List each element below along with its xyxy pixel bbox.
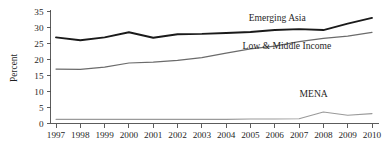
x-tick-label: 2004 — [217, 130, 236, 140]
x-tick-label: 1999 — [95, 130, 114, 140]
y-tick-label: 35 — [34, 7, 44, 17]
series-line-mena — [56, 112, 372, 119]
y-tick-label: 15 — [34, 71, 44, 81]
y-tick-label: 0 — [39, 119, 44, 129]
x-tick-label: 2010 — [363, 130, 382, 140]
series-label-low-middle-income: Low & Middle Income — [243, 40, 332, 51]
line-chart: 05101520253035 Percent 19971998199920002… — [0, 0, 387, 144]
x-tick-label: 2007 — [290, 130, 309, 140]
y-axis: 05101520253035 Percent — [9, 7, 51, 129]
x-tick-label: 2005 — [241, 130, 260, 140]
x-tick-group: 1997199819992000200120022003200420052006… — [47, 124, 382, 141]
y-tick-label: 25 — [34, 39, 44, 49]
y-tick-label: 5 — [39, 103, 44, 113]
x-tick-label: 2008 — [314, 130, 333, 140]
x-tick-label: 2000 — [120, 130, 139, 140]
x-tick-label: 1998 — [71, 130, 90, 140]
y-tick-label: 30 — [34, 23, 44, 33]
chart-canvas: 05101520253035 Percent 19971998199920002… — [0, 0, 387, 144]
y-axis-title: Percent — [9, 53, 19, 82]
x-tick-label: 2006 — [266, 130, 285, 140]
y-tick-group: 05101520253035 — [34, 7, 50, 129]
y-tick-label: 10 — [34, 87, 44, 97]
series-label-emerging-asia: Emerging Asia — [249, 12, 307, 23]
series-group — [56, 18, 372, 119]
x-tick-label: 2002 — [168, 130, 187, 140]
x-tick-label: 2001 — [144, 130, 163, 140]
series-line-emerging-asia — [56, 18, 372, 40]
x-tick-label: 2003 — [193, 130, 212, 140]
x-tick-label: 1997 — [47, 130, 66, 140]
series-label-mena: MENA — [300, 88, 328, 99]
y-tick-label: 20 — [34, 55, 44, 65]
x-axis: 1997199819992000200120022003200420052006… — [47, 124, 382, 141]
x-tick-label: 2009 — [339, 130, 358, 140]
series-label-group: Emerging AsiaLow & Middle IncomeMENA — [243, 12, 332, 99]
